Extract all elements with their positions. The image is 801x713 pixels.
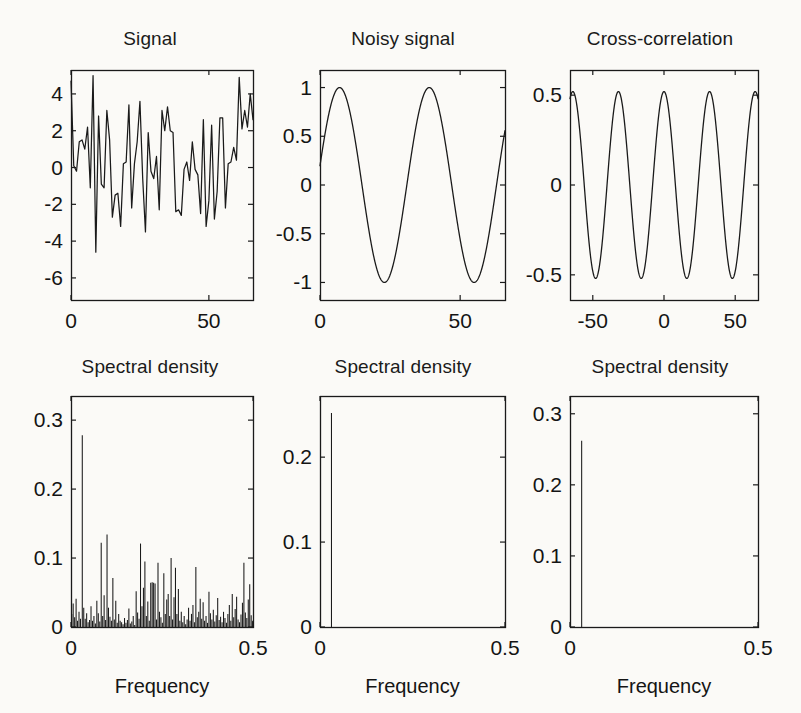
psd3-ytick-label: 0.1 <box>452 544 562 568</box>
psd2-xtick-label: 0 <box>314 636 326 660</box>
psd3-ytick-label: 0 <box>452 615 562 639</box>
psd1-xaxis-label: Frequency <box>71 675 253 698</box>
psd2-xtick-label: 0.5 <box>490 636 519 660</box>
psd1-ytick-label: 0.1 <box>0 546 63 570</box>
noisy-ytick-label: 0 <box>202 173 312 197</box>
psd1-xtick-label: 0 <box>65 636 77 660</box>
psd3-xtick-label: 0 <box>564 636 576 660</box>
psd2-xaxis-label: Frequency <box>320 675 505 698</box>
signal-ytick-label: 4 <box>0 82 63 106</box>
figure-canvas: Signal Noisy signal Cross-correlation Sp… <box>0 0 801 713</box>
psd3-ytick-label: 0.2 <box>452 473 562 497</box>
psd2-ytick-label: 0 <box>202 615 312 639</box>
noisy-xtick-label: 0 <box>314 309 326 333</box>
xcorr-xtick-label: 50 <box>724 309 747 333</box>
psd1-xtick-label: 0.5 <box>238 636 267 660</box>
psd2-ytick-label: 0.2 <box>202 445 312 469</box>
xcorr-xtick-label: 0 <box>658 309 670 333</box>
signal-ytick-label: -2 <box>0 192 63 216</box>
xcorr-ytick-label: 0 <box>452 173 562 197</box>
psd1-ytick-label: 0.2 <box>0 477 63 501</box>
noisy-xtick-label: 50 <box>448 309 471 333</box>
psd3-xaxis-label: Frequency <box>570 675 758 698</box>
noisy-ytick-label: 1 <box>202 76 312 100</box>
psd1-ytick-label: 0 <box>0 615 63 639</box>
noisy-ytick-label: -1 <box>202 270 312 294</box>
axis-label-layer: 420-2-4-605010.50-0.5-10500.50-0.5-50050… <box>0 0 801 713</box>
xcorr-ytick-label: 0.5 <box>452 83 562 107</box>
signal-ytick-label: -4 <box>0 229 63 253</box>
signal-ytick-label: -6 <box>0 266 63 290</box>
xcorr-ytick-label: -0.5 <box>452 263 562 287</box>
psd3-ytick-label: 0.3 <box>452 402 562 426</box>
signal-xtick-label: 50 <box>197 309 220 333</box>
signal-xtick-label: 0 <box>65 309 77 333</box>
signal-ytick-label: 0 <box>0 156 63 180</box>
xcorr-xtick-label: -50 <box>578 309 608 333</box>
signal-ytick-label: 2 <box>0 119 63 143</box>
psd3-xtick-label: 0.5 <box>743 636 772 660</box>
noisy-ytick-label: 0.5 <box>202 124 312 148</box>
psd1-ytick-label: 0.3 <box>0 408 63 432</box>
psd2-ytick-label: 0.1 <box>202 530 312 554</box>
noisy-ytick-label: -0.5 <box>202 222 312 246</box>
